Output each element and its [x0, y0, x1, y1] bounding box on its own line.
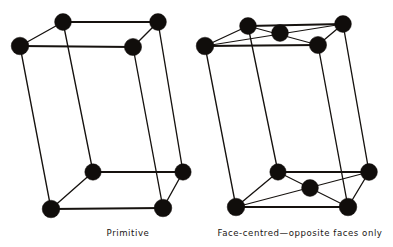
edge-pillar-back-left [248, 26, 278, 172]
atom-bottom-face-centre [302, 180, 319, 197]
edge-top-front [205, 45, 318, 46]
atom-bottom-front-left [227, 198, 245, 216]
atom-top-front-left [196, 37, 214, 55]
panel-primitive: Primitive [11, 14, 191, 238]
caption-primitive: Primitive [107, 228, 150, 238]
atom-top-front-left [11, 37, 29, 55]
edge-pillar-front-left [205, 46, 236, 207]
atom-bottom-back-left [270, 164, 286, 180]
atom-bottom-front-right [154, 199, 172, 217]
edge-pillar-back-right [158, 22, 183, 172]
atom-bottom-back-right [361, 164, 378, 181]
atom-bottom-back-left [85, 164, 101, 180]
lattice-diagram-svg: Primitive [0, 0, 393, 247]
edge-pillar-front-right [133, 47, 163, 208]
atom-top-face-centre [272, 25, 289, 42]
atom-bottom-back-right [175, 164, 191, 180]
panel-face-centred: Face-centred—opposite faces only [196, 16, 382, 238]
edge-pillar-back-left [63, 22, 93, 172]
atom-bottom-front-left [42, 200, 60, 218]
atom-top-back-right [150, 14, 167, 31]
edge-top-front [20, 46, 133, 47]
edge-top-back [248, 24, 343, 26]
caption-face-centred: Face-centred—opposite faces only [217, 228, 382, 238]
edge-pillar-front-left [20, 46, 51, 209]
atom-bottom-front-right [339, 198, 357, 216]
primitive-edges [20, 22, 183, 209]
atom-top-front-right [309, 36, 326, 53]
atom-top-back-right [335, 16, 352, 33]
primitive-atoms [11, 14, 191, 218]
edge-bottom-front [51, 208, 163, 209]
atom-top-back-left [240, 18, 257, 35]
atom-top-front-right [124, 38, 141, 55]
face-centred-edges [205, 24, 369, 207]
atom-top-back-left [55, 14, 72, 31]
edge-pillar-back-right [343, 24, 369, 172]
edge-pillar-front-right [318, 45, 348, 207]
figure-root: Primitive [0, 0, 393, 247]
